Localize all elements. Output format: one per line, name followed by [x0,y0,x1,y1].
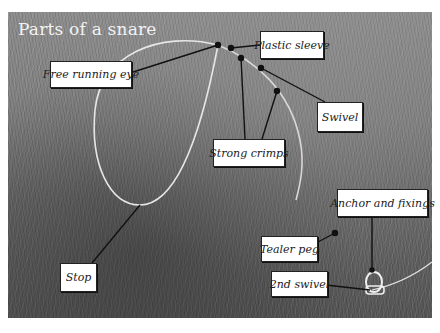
label-swivel: Swivel [317,102,363,132]
label-second-swivel: 2nd swivel [271,271,328,297]
label-strong-crimps: Strong crimps [213,139,285,167]
label-anchor-and-fixings: Anchor and fixings [337,189,428,217]
annotated-photo: Parts of a snare Free running eye Plasti… [0,0,440,333]
label-tealer-peg: Tealer peg [261,236,318,262]
photo-title: Parts of a snare [18,19,157,39]
label-plastic-sleeve: Plastic sleeve [260,31,324,59]
label-stop: Stop [60,263,97,292]
label-free-running-eye: Free running eye [50,61,132,88]
